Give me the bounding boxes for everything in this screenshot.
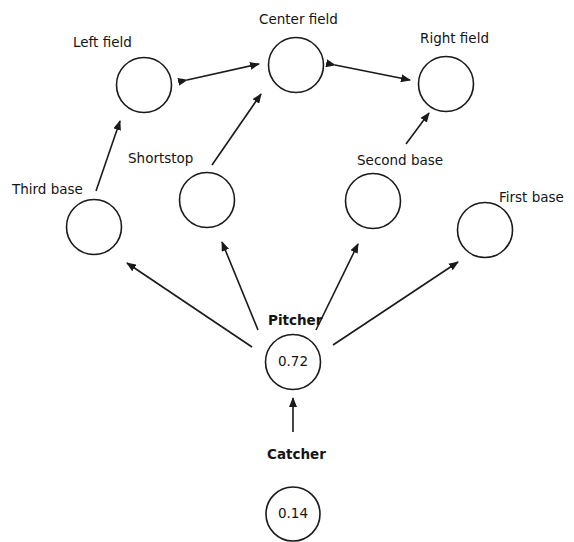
label-pitcher: Pitcher	[268, 312, 322, 328]
label-left-field: Left field	[73, 34, 132, 50]
node-left-field	[117, 58, 172, 113]
edge-third-base-to-left-field	[96, 121, 120, 191]
label-right-field: Right field	[420, 30, 489, 46]
edge-left-center-field	[187, 64, 259, 80]
label-third-base: Third base	[12, 181, 83, 197]
node-right-field	[419, 57, 474, 112]
label-second-base: Second base	[357, 152, 443, 168]
edge-pitcher-to-shortstop	[222, 242, 258, 330]
edge-pitcher-to-third-base	[127, 263, 252, 347]
label-catcher: Catcher	[267, 446, 326, 462]
node-first-base	[458, 203, 513, 258]
edge-second-base-to-right-field	[406, 113, 429, 144]
edge-pitcher-to-first-base	[333, 262, 458, 345]
label-first-base: First base	[499, 189, 564, 205]
value-catcher: 0.14	[263, 505, 323, 521]
node-center-field	[269, 38, 324, 93]
label-center-field: Center field	[259, 11, 338, 27]
edge-right-center-field	[335, 65, 410, 80]
value-pitcher: 0.72	[263, 353, 323, 369]
label-shortstop: Shortstop	[128, 150, 193, 166]
node-third-base	[67, 200, 122, 255]
node-second-base	[346, 174, 401, 229]
node-shortstop	[180, 173, 235, 228]
edge-shortstop-to-center-field	[212, 94, 261, 165]
